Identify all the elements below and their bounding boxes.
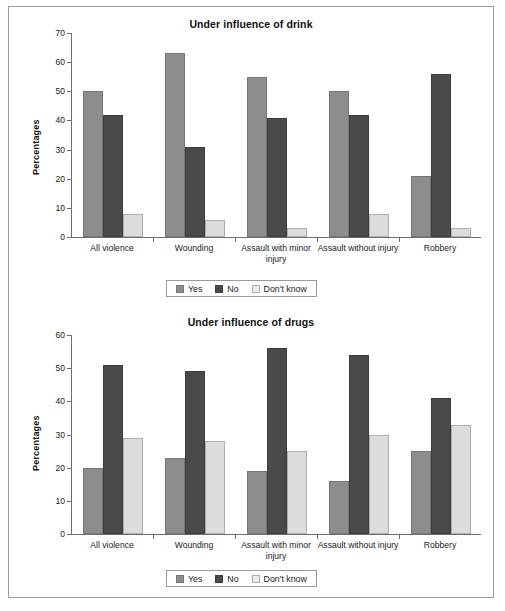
x-axis-label: Robbery [399, 540, 481, 551]
bar-no[interactable] [431, 74, 451, 237]
legend-item-no[interactable]: No [215, 574, 238, 584]
y-tick-mark [67, 335, 71, 336]
bar-yes[interactable] [247, 77, 267, 237]
x-tick-mark [399, 238, 400, 242]
legend-swatch-dont-know-icon [252, 285, 260, 293]
x-tick-mark [317, 238, 318, 242]
bar-dk[interactable] [287, 451, 307, 534]
y-tick-mark [67, 150, 71, 151]
bar-dk[interactable] [205, 220, 225, 237]
bar-dk[interactable] [451, 228, 471, 237]
legend-label-dont-know: Don't know [264, 284, 307, 294]
legend-item-no[interactable]: No [215, 284, 238, 294]
y-tick-label: 20 [37, 174, 65, 183]
bar-group-bars [154, 33, 236, 237]
bar-no[interactable] [349, 115, 369, 237]
y-tick-mark [67, 435, 71, 436]
y-tick-label: 0 [37, 233, 65, 242]
x-axis-line-drink [71, 237, 481, 238]
bar-no[interactable] [185, 147, 205, 237]
y-tick-mark [67, 534, 71, 535]
plot-area-drink: Percentages 010203040506070 All violence… [9, 7, 493, 305]
bar-yes[interactable] [329, 481, 349, 534]
legend-item-yes[interactable]: Yes [176, 574, 202, 584]
bar-no[interactable] [103, 365, 123, 534]
y-tick-mark [67, 468, 71, 469]
legend-item-dont-know[interactable]: Don't know [252, 574, 307, 584]
y-tick-mark [67, 401, 71, 402]
y-tick-label: 10 [37, 204, 65, 213]
bar-group [236, 33, 318, 237]
y-tick-label: 50 [37, 87, 65, 96]
bar-no[interactable] [349, 355, 369, 534]
x-axis-label: Assault without injury [317, 540, 399, 551]
y-tick-label: 30 [37, 145, 65, 154]
bar-yes[interactable] [329, 91, 349, 237]
bar-group [72, 33, 154, 237]
y-tick-label: 30 [37, 430, 65, 439]
bar-dk[interactable] [369, 435, 389, 535]
bar-group [400, 335, 482, 534]
bar-dk[interactable] [451, 425, 471, 534]
bar-yes[interactable] [83, 91, 103, 237]
x-tick-mark [153, 535, 154, 539]
legend-label-yes: Yes [188, 284, 202, 294]
bar-no[interactable] [431, 398, 451, 534]
x-tick-mark [399, 535, 400, 539]
bar-no[interactable] [103, 115, 123, 237]
legend-label-no: No [227, 284, 238, 294]
legend-swatch-no-icon [215, 575, 223, 583]
bar-group-bars [236, 33, 318, 237]
legend-item-dont-know[interactable]: Don't know [252, 284, 307, 294]
bar-yes[interactable] [411, 176, 431, 237]
bar-group [236, 335, 318, 534]
bar-yes[interactable] [83, 468, 103, 534]
bars-layer-drink [72, 33, 481, 237]
bar-no[interactable] [267, 348, 287, 534]
x-tick-mark [235, 238, 236, 242]
x-axis-label: All violence [71, 540, 153, 551]
bar-group [318, 335, 400, 534]
x-axis-line-drugs [71, 534, 481, 535]
bar-group [154, 33, 236, 237]
bar-group-bars [318, 33, 400, 237]
bar-group-bars [72, 335, 154, 534]
y-tick-mark [67, 33, 71, 34]
y-tick-label: 60 [37, 58, 65, 67]
x-tick-mark [317, 535, 318, 539]
bar-group [154, 335, 236, 534]
y-tick-label: 0 [37, 530, 65, 539]
bar-no[interactable] [185, 371, 205, 534]
chart-under-influence-of-drugs: Under influence of drugs Percentages 010… [9, 305, 493, 597]
legend-swatch-yes-icon [176, 285, 184, 293]
bar-dk[interactable] [205, 441, 225, 534]
axis-area-drugs: 0102030405060 [71, 335, 481, 535]
figure-frame: Under influence of drink Percentages 010… [8, 6, 494, 598]
bar-yes[interactable] [411, 451, 431, 534]
y-tick-mark [67, 91, 71, 92]
x-axis-label: Assault with minor injury [235, 540, 317, 562]
bar-group-bars [236, 335, 318, 534]
bar-group [72, 335, 154, 534]
bar-dk[interactable] [123, 214, 143, 237]
bar-yes[interactable] [165, 458, 185, 534]
legend-label-yes: Yes [188, 574, 202, 584]
y-tick-label: 50 [37, 364, 65, 373]
y-tick-label: 40 [37, 397, 65, 406]
y-tick-mark [67, 368, 71, 369]
bar-dk[interactable] [369, 214, 389, 237]
bar-yes[interactable] [165, 53, 185, 237]
legend-item-yes[interactable]: Yes [176, 284, 202, 294]
bar-dk[interactable] [287, 228, 307, 237]
x-axis-label: Wounding [153, 540, 235, 551]
legend-drugs: Yes No Don't know [166, 570, 317, 587]
x-axis-label: Assault without injury [317, 243, 399, 254]
bar-group [318, 33, 400, 237]
bar-yes[interactable] [247, 471, 267, 534]
y-tick-label: 60 [37, 331, 65, 340]
x-axis-label: Wounding [153, 243, 235, 254]
legend-swatch-dont-know-icon [252, 575, 260, 583]
bar-no[interactable] [267, 118, 287, 237]
bar-group-bars [400, 335, 482, 534]
bar-dk[interactable] [123, 438, 143, 534]
